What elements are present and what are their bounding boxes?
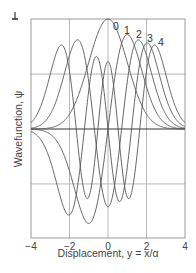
y-axis-title: Wavefunction, ψ (12, 91, 24, 168)
wavefunction-chart: 01234 −4−2024 Displacement, y = x/α Wave… (0, 0, 196, 273)
curve-label-3: 3 (147, 32, 153, 44)
scale-marker (12, 12, 18, 19)
curve-label-4: 4 (158, 36, 164, 48)
curve-label-0: 0 (113, 20, 119, 32)
curve-label-1: 1 (124, 24, 130, 36)
curve-label-2: 2 (136, 28, 142, 40)
curve-labels: 01234 (113, 20, 164, 48)
x-axis-title: Displacement, y = x/α (58, 247, 159, 259)
x-tick-label: −4 (25, 241, 37, 252)
x-tick-label: 4 (182, 241, 188, 252)
